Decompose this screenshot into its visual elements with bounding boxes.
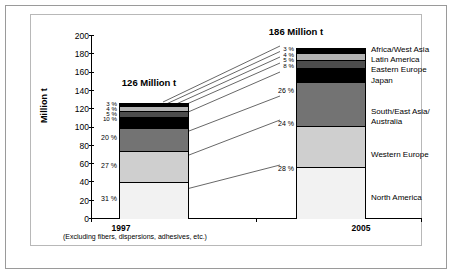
chart-figure: Million t 200 180 160 140 120 100 80 60 … bbox=[0, 0, 454, 276]
segment-north-america-1997[interactable] bbox=[120, 183, 188, 219]
bar-total-label-2005: 186 Million t bbox=[236, 26, 356, 37]
segment-south-east-asia-australia-2005[interactable] bbox=[297, 83, 365, 127]
legend-label-australia: Australia bbox=[371, 117, 402, 127]
footnote: (Excluding fibers, dispersions, adhesive… bbox=[63, 233, 207, 240]
stacked-bar-1997[interactable] bbox=[119, 103, 189, 218]
segment-north-america-2005[interactable] bbox=[297, 168, 365, 219]
y-tick-label: 180 bbox=[63, 49, 89, 59]
segment-latin-america-2005[interactable] bbox=[297, 54, 365, 61]
y-tick-label: 0 bbox=[63, 214, 89, 224]
pct-label-japan-2005: 8 % bbox=[264, 62, 294, 69]
segment-japan-1997[interactable] bbox=[120, 118, 188, 130]
pct-label-western-europe-2005: 24 % bbox=[262, 120, 294, 127]
legend-label-north-america: North America bbox=[371, 193, 422, 203]
legend-label-latin-america: Latin America bbox=[371, 55, 419, 65]
y-tick-label: 100 bbox=[63, 122, 89, 132]
y-tick-label: 160 bbox=[63, 67, 89, 77]
legend-label-japan: Japan bbox=[371, 76, 393, 86]
pct-label-south-east-asia-australia-1997: 20 % bbox=[85, 134, 117, 141]
segment-western-europe-2005[interactable] bbox=[297, 127, 365, 168]
legend-label-eastern-europe: Eastern Europe bbox=[371, 65, 427, 75]
y-tick-label: 40 bbox=[63, 177, 89, 187]
x-tick-label-1997: 1997 bbox=[91, 223, 151, 233]
pct-label-western-europe-1997: 27 % bbox=[85, 162, 117, 169]
y-tick-label: 200 bbox=[63, 31, 89, 41]
plot-area-border: Million t 200 180 160 140 120 100 80 60 … bbox=[30, 14, 422, 246]
segment-south-east-asia-australia-1997[interactable] bbox=[120, 129, 188, 152]
legend-label-africa-west-asia: Africa/West Asia bbox=[371, 45, 429, 55]
stacked-bar-2005[interactable] bbox=[296, 48, 366, 218]
legend-label-western-europe: Western Europe bbox=[371, 150, 429, 160]
pct-label-japan-1997: 10 % bbox=[87, 115, 117, 122]
segment-eastern-europe-2005[interactable] bbox=[297, 61, 365, 70]
y-tick-label: 120 bbox=[63, 104, 89, 114]
pct-label-south-east-asia-australia-2005: 26 % bbox=[262, 87, 294, 94]
y-axis-title: Million t bbox=[39, 43, 49, 123]
legend-label-south-east-asia: South/East Asia/ bbox=[371, 107, 430, 117]
x-tick-label-2005: 2005 bbox=[331, 223, 391, 233]
segment-western-europe-1997[interactable] bbox=[120, 152, 188, 183]
y-tick-label: 140 bbox=[63, 86, 89, 96]
pct-label-north-america-2005: 28 % bbox=[262, 165, 294, 172]
y-axis-tick-labels: 200 180 160 140 120 100 80 60 40 20 0 bbox=[57, 15, 89, 247]
pct-label-north-america-1997: 31 % bbox=[85, 195, 117, 202]
bar-total-label-1997: 126 Million t bbox=[89, 77, 209, 88]
segment-japan-2005[interactable] bbox=[297, 69, 365, 83]
y-tick-label: 80 bbox=[63, 141, 89, 151]
